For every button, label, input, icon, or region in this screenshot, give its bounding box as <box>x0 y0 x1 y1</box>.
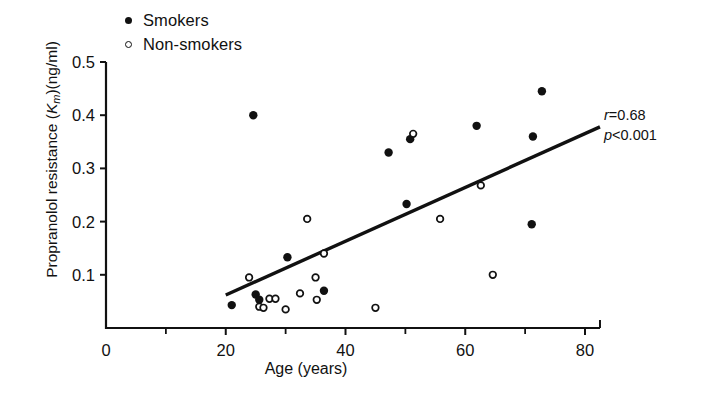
y-tick-label: 0.4 <box>72 106 95 124</box>
data-point-smoker <box>228 301 236 309</box>
x-tick-label: 40 <box>336 341 354 359</box>
data-point-smoker <box>402 200 410 208</box>
data-point-smoker <box>283 253 291 261</box>
data-point-non-smoker <box>372 304 379 311</box>
data-point-non-smoker <box>312 274 319 281</box>
data-point-non-smoker <box>489 272 496 279</box>
data-point-smoker <box>384 148 392 156</box>
data-point-non-smoker <box>410 131 417 138</box>
data-point-non-smoker <box>272 295 279 302</box>
y-tick-label: 0.1 <box>72 266 95 284</box>
x-tick-label: 0 <box>101 341 110 359</box>
data-point-smoker <box>528 220 536 228</box>
data-point-smoker <box>538 87 546 95</box>
data-point-non-smoker <box>437 216 444 223</box>
x-tick-label: 20 <box>217 341 235 359</box>
plot-area: 0.10.20.30.40.5020406080 <box>0 0 702 406</box>
data-point-non-smoker <box>246 274 253 281</box>
data-point-smoker <box>249 111 257 119</box>
data-point-smoker <box>320 287 328 295</box>
data-point-smoker <box>472 122 480 130</box>
y-tick-label: 0.5 <box>72 53 95 71</box>
x-tick-label: 80 <box>576 341 594 359</box>
data-point-non-smoker <box>260 304 267 311</box>
chart-figure: Smokers Non-smokers Propranolol resistan… <box>0 0 702 406</box>
data-point-non-smoker <box>478 182 485 189</box>
data-point-non-smoker <box>282 306 289 313</box>
y-tick-label: 0.2 <box>72 213 95 231</box>
y-tick-label: 0.3 <box>72 159 95 177</box>
data-point-non-smoker <box>321 250 328 257</box>
x-tick-label: 60 <box>456 341 474 359</box>
regression-line <box>226 127 600 295</box>
data-point-non-smoker <box>313 297 320 304</box>
axis-spine <box>106 62 600 328</box>
data-point-non-smoker <box>297 290 304 297</box>
data-point-non-smoker <box>304 216 311 223</box>
data-point-smoker <box>529 132 537 140</box>
